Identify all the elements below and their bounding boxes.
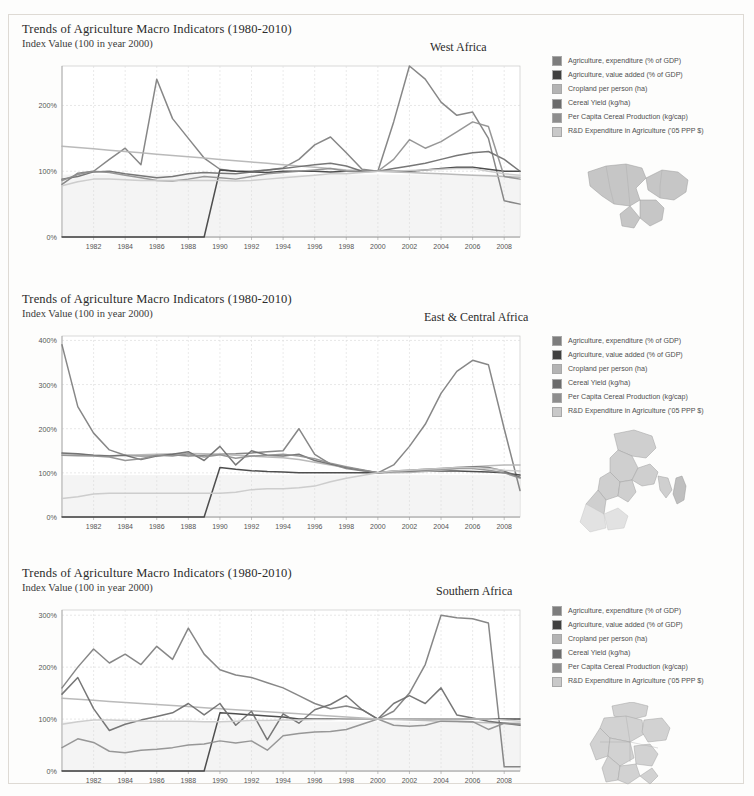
legend-swatch-per_capita_cereal	[552, 663, 562, 673]
legend-swatch-cereal_yield	[552, 99, 562, 109]
legend-item: Cereal Yield (kg/ha)	[552, 647, 704, 661]
x-axis-tick-label: 1986	[149, 777, 165, 784]
y-axis-tick-label: 300%	[39, 611, 58, 620]
y-axis-tick-label: 100%	[39, 469, 58, 478]
chart-legend: Agriculture, expenditure (% of GDP)Agric…	[552, 334, 704, 419]
plot-area: 0%100%200%300%400%1982198419861988199019…	[22, 328, 532, 543]
legend-swatch-cereal_yield	[552, 379, 562, 389]
legend-swatch-per_capita_cereal	[552, 393, 562, 403]
legend-swatch-ag_value_added	[552, 70, 562, 80]
y-axis-tick-label: 400%	[39, 336, 58, 345]
chart-title: Trends of Agriculture Macro Indicators (…	[22, 566, 292, 581]
x-axis-tick-label: 2008	[496, 243, 512, 250]
chart-panel-east-central-africa: Trends of Agriculture Macro Indicators (…	[0, 288, 754, 556]
y-axis-tick-label: 200%	[39, 425, 58, 434]
x-axis-tick-label: 2004	[433, 243, 449, 250]
x-axis-tick-label: 2000	[370, 243, 386, 250]
y-axis-tick-label: 300%	[39, 381, 58, 390]
x-axis-tick-label: 2004	[433, 523, 449, 530]
legend-label: Cereal Yield (kg/ha)	[568, 380, 630, 387]
chart-panel-west-africa: Trends of Agriculture Macro Indicators (…	[0, 18, 754, 276]
chart-legend: Agriculture, expenditure (% of GDP)Agric…	[552, 604, 704, 689]
legend-item: Agriculture, expenditure (% of GDP)	[552, 604, 704, 618]
x-axis-tick-label: 1992	[244, 777, 260, 784]
map-graphic	[576, 428, 706, 538]
legend-label: Per Capita Cereal Production (kg/cap)	[568, 394, 688, 401]
x-axis-tick-label: 1988	[181, 243, 197, 250]
legend-swatch-rd_expenditure	[552, 677, 562, 687]
legend-item: Per Capita Cereal Production (kg/cap)	[552, 391, 704, 405]
x-axis-tick-label: 1990	[212, 777, 228, 784]
legend-label: Agriculture, value added (% of GDP)	[568, 72, 683, 79]
plot-area: 0%100%200%198219841986198819901992199419…	[22, 58, 532, 263]
legend-item: Cereal Yield (kg/ha)	[552, 97, 704, 111]
legend-label: Agriculture, value added (% of GDP)	[568, 622, 683, 629]
x-axis-tick-label: 2004	[433, 777, 449, 784]
y-axis-tick-label: 100%	[39, 715, 58, 724]
x-axis-tick-label: 1988	[181, 523, 197, 530]
region-title: Southern Africa	[436, 584, 512, 599]
legend-item: Cereal Yield (kg/ha)	[552, 377, 704, 391]
x-axis-tick-label: 2000	[370, 777, 386, 784]
figure-page: Trends of Agriculture Macro Indicators (…	[0, 0, 754, 796]
x-axis-tick-label: 1996	[307, 777, 323, 784]
x-axis-tick-label: 1982	[86, 777, 102, 784]
legend-swatch-rd_expenditure	[552, 407, 562, 417]
map-graphic	[582, 702, 702, 796]
legend-item: Agriculture, value added (% of GDP)	[552, 618, 704, 632]
x-axis-tick-label: 1990	[212, 243, 228, 250]
legend-item: Agriculture, value added (% of GDP)	[552, 348, 704, 362]
x-axis-tick-label: 1990	[212, 523, 228, 530]
legend-label: Cereal Yield (kg/ha)	[568, 100, 630, 107]
chart-title: Trends of Agriculture Macro Indicators (…	[22, 22, 292, 37]
legend-swatch-per_capita_cereal	[552, 113, 562, 123]
line-chart-svg: 0%100%200%300%400%1982198419861988199019…	[22, 328, 532, 543]
x-axis-tick-label: 2006	[465, 523, 481, 530]
legend-item: Agriculture, value added (% of GDP)	[552, 68, 704, 82]
legend-label: Cropland per person (ha)	[568, 86, 647, 93]
y-axis-tick-label: 200%	[39, 101, 58, 110]
y-axis-tick-label: 0%	[47, 513, 58, 522]
legend-label: Per Capita Cereal Production (kg/cap)	[568, 664, 688, 671]
legend-item: Per Capita Cereal Production (kg/cap)	[552, 111, 704, 125]
legend-item: R&D Expenditure in Agriculture ('05 PPP …	[552, 125, 704, 139]
legend-swatch-rd_expenditure	[552, 127, 562, 137]
legend-swatch-ag_expenditure	[552, 56, 562, 66]
legend-label: Cereal Yield (kg/ha)	[568, 650, 630, 657]
chart-subtitle: Index Value (100 in year 2000)	[22, 582, 153, 593]
x-axis-tick-label: 1992	[244, 523, 260, 530]
line-chart-svg: 0%100%200%300%19821984198619881990199219…	[22, 602, 532, 796]
y-axis-tick-label: 200%	[39, 663, 58, 672]
x-axis-tick-label: 1996	[307, 523, 323, 530]
region-title: West Africa	[430, 40, 487, 55]
legend-label: R&D Expenditure in Agriculture ('05 PPP …	[568, 128, 704, 135]
x-axis-tick-label: 2002	[402, 243, 418, 250]
x-axis-tick-label: 1982	[86, 243, 102, 250]
x-axis-tick-label: 1992	[244, 243, 260, 250]
legend-label: Agriculture, expenditure (% of GDP)	[568, 338, 681, 345]
legend-swatch-cropland_per_person	[552, 84, 562, 94]
x-axis-tick-label: 2008	[496, 523, 512, 530]
west-africa-map	[576, 146, 706, 246]
x-axis-tick-label: 1984	[117, 523, 133, 530]
legend-swatch-ag_value_added	[552, 350, 562, 360]
y-axis-tick-label: 100%	[39, 167, 58, 176]
legend-swatch-cropland_per_person	[552, 634, 562, 644]
x-axis-tick-label: 1994	[275, 777, 291, 784]
x-axis-tick-label: 1998	[338, 523, 354, 530]
chart-subtitle: Index Value (100 in year 2000)	[22, 308, 153, 319]
x-axis-tick-label: 2008	[496, 777, 512, 784]
legend-item: R&D Expenditure in Agriculture ('05 PPP …	[552, 405, 704, 419]
plot-shaded-band	[62, 722, 520, 771]
x-axis-tick-label: 1984	[117, 777, 133, 784]
southern-africa-map	[582, 702, 702, 796]
legend-item: Agriculture, expenditure (% of GDP)	[552, 54, 704, 68]
x-axis-tick-label: 1986	[149, 243, 165, 250]
chart-title: Trends of Agriculture Macro Indicators (…	[22, 292, 292, 307]
x-axis-tick-label: 1982	[86, 523, 102, 530]
plot-shaded-band	[62, 475, 520, 517]
x-axis-tick-label: 1986	[149, 523, 165, 530]
legend-label: Cropland per person (ha)	[568, 636, 647, 643]
x-axis-tick-label: 1994	[275, 523, 291, 530]
legend-item: Cropland per person (ha)	[552, 632, 704, 646]
